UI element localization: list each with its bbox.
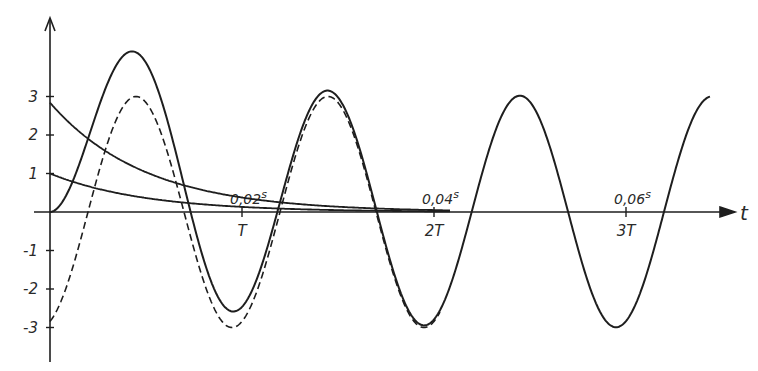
- total-response-curve: [50, 51, 710, 327]
- period-label: T: [237, 222, 248, 240]
- time-annotation: 0,04s: [422, 188, 459, 207]
- x-axis-arrow-icon: [720, 207, 735, 217]
- x-ticks: T0,02s2T0,04s3T0,06s: [230, 188, 651, 240]
- period-label: 3T: [617, 222, 638, 240]
- time-annotation: 0,06s: [614, 188, 651, 207]
- y-tick-label: 3: [28, 88, 38, 106]
- axes: [34, 18, 735, 362]
- y-tick-label: -3: [23, 319, 38, 337]
- y-tick-label: 2: [28, 126, 38, 144]
- time-annotation: 0,02s: [230, 188, 267, 207]
- x-axis-label: t: [740, 201, 749, 225]
- y-tick-label: 1: [28, 165, 38, 183]
- period-label: 2T: [425, 222, 446, 240]
- y-tick-label: -2: [23, 280, 38, 298]
- chart-canvas: 321-1-2-3 T0,02s2T0,04s3T0,06s t: [0, 0, 758, 371]
- y-tick-label: -1: [23, 242, 38, 260]
- curves: [50, 51, 710, 327]
